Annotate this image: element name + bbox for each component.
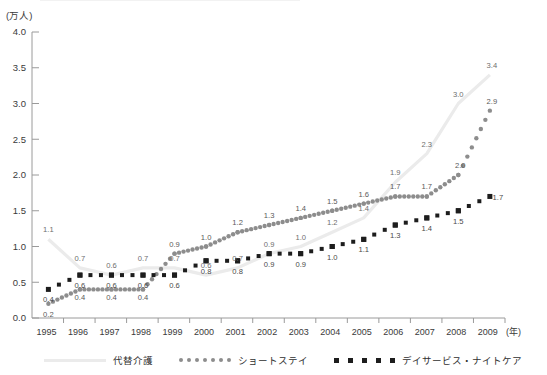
svg-text:2.9: 2.9 [487,97,498,106]
svg-text:0.7: 0.7 [75,254,86,263]
svg-text:0.6: 0.6 [169,281,180,290]
svg-text:0.7: 0.7 [232,254,243,263]
svg-text:2003: 2003 [289,327,309,337]
svg-text:3.0: 3.0 [453,90,464,99]
svg-text:1.7: 1.7 [422,182,433,191]
svg-text:3.0: 3.0 [13,98,26,109]
svg-text:3.5: 3.5 [13,62,26,73]
svg-text:1996: 1996 [68,327,88,337]
svg-text:1.9: 1.9 [390,168,401,177]
svg-text:2004: 2004 [320,327,340,337]
svg-text:1998: 1998 [131,327,151,337]
svg-text:1.7: 1.7 [493,193,504,202]
chart-plot-area: 0.00.51.01.52.02.53.03.54.01995199619971… [0,0,547,345]
svg-text:2008: 2008 [446,327,466,337]
svg-text:0.7: 0.7 [138,254,149,263]
svg-text:0.9: 0.9 [295,260,306,269]
legend-item-substitute-care[interactable]: 代替介護 [44,353,153,367]
svg-text:2000: 2000 [194,327,214,337]
svg-text:0.8: 0.8 [201,267,212,276]
legend-label-day-service-night-care: デイサービス・ナイトケア [402,353,522,367]
svg-text:3.4: 3.4 [487,61,498,70]
svg-text:0.5: 0.5 [13,277,26,288]
svg-text:1.0: 1.0 [327,253,338,262]
svg-text:1.1: 1.1 [358,245,369,254]
legend-label-substitute-care: 代替介護 [113,353,153,367]
legend-item-day-service-night-care[interactable]: デイサービス・ナイトケア [334,353,522,367]
legend-label-short-stay: ショートステイ [238,353,308,367]
svg-text:2009: 2009 [478,327,498,337]
svg-text:0.0: 0.0 [13,312,26,323]
svg-text:0.8: 0.8 [232,267,243,276]
svg-text:0.9: 0.9 [169,240,180,249]
svg-text:0.4: 0.4 [138,293,149,302]
svg-text:1.4: 1.4 [422,224,433,233]
svg-text:0.7: 0.7 [169,254,180,263]
svg-text:1.7: 1.7 [390,182,401,191]
svg-text:0.6: 0.6 [75,281,86,290]
svg-text:2006: 2006 [383,327,403,337]
svg-text:0.4: 0.4 [75,293,86,302]
svg-text:2005: 2005 [352,327,372,337]
svg-text:2001: 2001 [226,327,246,337]
svg-text:1.4: 1.4 [295,204,306,213]
chart-legend: 代替介護 ショートステイ デイサービス・ナイトケア [0,345,547,375]
svg-text:2002: 2002 [257,327,277,337]
svg-text:1.5: 1.5 [13,205,26,216]
legend-swatch-line-icon [44,359,106,362]
svg-text:0.4: 0.4 [106,293,117,302]
svg-text:1.1: 1.1 [43,225,54,234]
svg-text:1997: 1997 [99,327,119,337]
svg-text:0.9: 0.9 [264,260,275,269]
svg-text:2.3: 2.3 [422,140,433,149]
legend-swatch-squares-icon [334,358,395,363]
svg-text:1.2: 1.2 [232,218,243,227]
svg-text:0.2: 0.2 [43,310,54,319]
svg-text:0.6: 0.6 [106,261,117,270]
svg-text:1.0: 1.0 [295,233,306,242]
svg-text:1.3: 1.3 [264,211,275,220]
svg-text:0.6: 0.6 [106,281,117,290]
svg-text:1999: 1999 [163,327,183,337]
legend-swatch-dots-icon [179,358,231,362]
svg-text:0.9: 0.9 [264,240,275,249]
svg-text:2007: 2007 [415,327,435,337]
svg-text:1.5: 1.5 [327,197,338,206]
svg-text:1.0: 1.0 [201,233,212,242]
svg-text:2.0: 2.0 [455,161,466,170]
svg-text:2.0: 2.0 [13,169,26,180]
svg-text:4.0: 4.0 [13,26,26,37]
svg-text:1.0: 1.0 [13,241,26,252]
svg-text:1.4: 1.4 [358,204,369,213]
svg-text:2.5: 2.5 [13,134,26,145]
svg-text:1.3: 1.3 [390,231,401,240]
svg-text:1.2: 1.2 [327,218,338,227]
svg-text:0.4: 0.4 [43,295,54,304]
svg-text:0.6: 0.6 [138,281,149,290]
svg-text:1.5: 1.5 [453,217,464,226]
svg-text:1995: 1995 [36,327,56,337]
svg-text:1.6: 1.6 [358,190,369,199]
chart-container: (万人) (年) 0.00.51.01.52.02.53.03.54.01995… [0,0,547,375]
legend-item-short-stay[interactable]: ショートステイ [179,353,308,367]
